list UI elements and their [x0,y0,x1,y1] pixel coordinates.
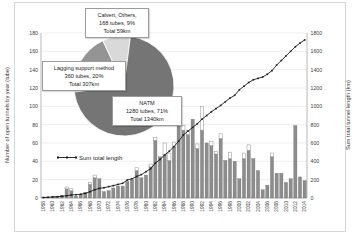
line-marker [141,174,143,176]
line-marker [295,46,297,48]
line-marker [225,101,227,103]
bar-white [210,141,213,146]
left-axis-tick: 100 [29,103,38,109]
line-marker [290,51,292,53]
left-axis-title: Number of open tunnels by year (tube) [4,67,10,163]
right-axis-tick: 800 [311,122,320,128]
line-marker [267,73,269,75]
bar-gray [200,130,203,198]
x-axis-tick: 2008 [274,201,279,212]
bar-white [93,175,96,178]
bar-gray [228,159,231,198]
line-marker [47,196,49,198]
line-marker [215,108,217,110]
line-marker [206,115,208,117]
x-axis-tick: 2010 [284,201,289,212]
bar-gray [294,126,297,198]
legend-line-marker-icon [57,157,77,159]
line-marker [211,111,213,113]
line-marker [304,39,306,41]
line-marker [103,187,105,189]
line-marker [239,89,241,91]
line-marker [187,130,189,132]
line-marker [271,70,273,72]
x-axis-tick: 1996 [218,201,223,212]
right-axis-tick: 1600 [311,48,323,54]
x-axis-tick: 1964 [69,201,74,212]
left-axis-tick: 80 [32,122,38,128]
bar-gray [163,155,166,198]
line-marker [164,154,166,156]
line-marker [248,82,250,84]
bar-gray [196,149,199,199]
bar-gray [191,119,194,198]
line-marker [169,150,171,152]
bar-gray [210,146,213,198]
line-marker [127,179,129,181]
combo-chart-figure: 0204060801001201401601800200400600800100… [0,0,359,233]
x-axis-tick: 1958 [41,201,46,212]
x-axis-tick: 1972 [106,201,111,212]
right-axis-tick: 0 [311,195,314,201]
line-marker [117,184,119,186]
line-marker [285,55,287,57]
bar-gray [149,167,152,198]
bar-gray [298,177,301,198]
bar-gray [275,173,278,198]
pie-label-calvert-line3: Total 59km [88,27,146,35]
line-marker [57,196,59,198]
bar-gray [182,130,185,198]
left-axis-tick: 40 [32,158,38,164]
bar-white [88,182,91,184]
bar-white [149,164,152,167]
pie-label-lagging-line3: Total 307km [45,80,123,88]
line-marker [66,195,68,197]
x-axis-tick: 1978 [134,201,139,212]
bar-gray [65,189,68,198]
x-axis-tick: 1976 [125,201,130,212]
line-marker [262,76,264,78]
bar-white [65,187,68,189]
x-axis-tick: 1966 [78,201,83,212]
bar-gray [102,192,105,198]
line-marker [113,185,115,187]
bar-gray [140,178,143,198]
left-axis-tick: 160 [29,48,38,54]
x-axis-tick: 1988 [181,201,186,212]
right-axis-tick: 1000 [311,103,323,109]
bar-gray [112,188,115,198]
line-marker [173,146,175,148]
bar-white [182,126,185,131]
x-axis-tick: 2002 [246,201,251,212]
line-marker [201,118,203,120]
pie-label-calvert-line2: 168 tubes, 9% [88,19,146,27]
bar-white [242,153,245,159]
bar-gray [107,191,110,198]
line-marker [108,186,110,188]
line-marker [229,97,231,99]
x-axis-tick: 2014 [302,201,307,212]
bar-gray [177,120,180,198]
line-marker [85,193,87,195]
bar-gray [261,190,264,198]
bar-white [70,189,73,191]
bar-gray [284,182,287,198]
line-marker [220,105,222,107]
left-axis-tick: 0 [35,195,38,201]
bar-gray [154,140,157,198]
x-axis-tick: 2006 [265,201,270,212]
line-marker [155,162,157,164]
line-marker [99,188,101,190]
legend-label: Sum total length [79,155,122,161]
bar-gray [205,143,208,198]
line-marker [276,64,278,66]
line-marker [71,194,73,196]
right-axis-tick: 200 [311,177,320,183]
bar-gray [280,173,283,198]
x-axis-tick: 1986 [172,201,177,212]
bar-gray [266,185,269,198]
line-marker [183,134,185,136]
bar-white [135,168,138,171]
pie-label-natm-line1: NATM [115,99,179,107]
bar-white [247,145,250,151]
